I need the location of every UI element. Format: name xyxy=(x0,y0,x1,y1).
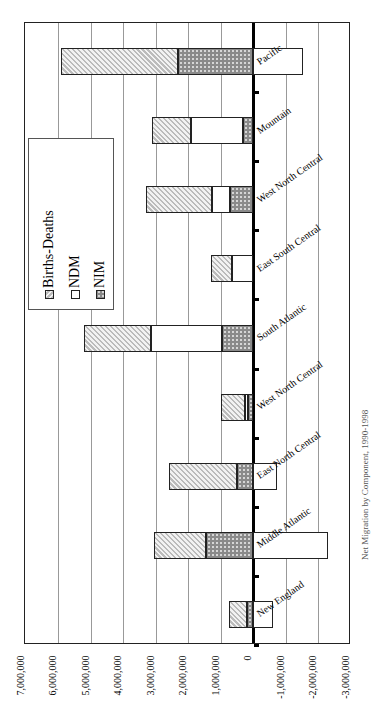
axis-tick-label: 7,000,000 xyxy=(14,656,25,703)
legend-item-nim: NIM xyxy=(92,261,108,299)
legend-item-ndm: NDM xyxy=(67,255,83,299)
bar-segment-births-deaths xyxy=(84,325,151,352)
dots-swatch-icon xyxy=(96,290,105,299)
bar-segment-births-deaths xyxy=(154,532,206,559)
bar-segment-ndm xyxy=(232,255,253,282)
bar-segment-births-deaths xyxy=(229,601,247,628)
bar-segment-births-deaths xyxy=(146,186,213,213)
gridline xyxy=(58,23,59,643)
bar-segment-births-deaths xyxy=(211,255,232,282)
category-label: West North Central xyxy=(255,359,325,412)
axis-tick-label: 4,000,000 xyxy=(112,656,123,703)
bar-segment-nim xyxy=(243,117,253,144)
bar-segment-births-deaths xyxy=(221,394,245,421)
axis-tick-label: -1,000,000 xyxy=(274,656,285,703)
category-label: Mountain xyxy=(255,104,293,135)
bar-segment-births-deaths xyxy=(61,48,178,75)
category-label: West North Central xyxy=(255,151,325,204)
bar-segment-ndm xyxy=(212,186,230,213)
legend: Births-Deaths NDM NIM xyxy=(28,138,114,310)
category-label: East North Central xyxy=(255,429,323,481)
hatch-swatch-icon xyxy=(45,290,54,299)
axis-tick-label: 6,000,000 xyxy=(47,656,58,703)
axis-tick xyxy=(254,91,259,94)
chart-title: Net Migration by Component, 1990-1998 xyxy=(360,410,370,560)
axis-tick xyxy=(254,368,259,371)
bar-segment-births-deaths xyxy=(169,463,237,490)
axis-tick-label: 1,000,000 xyxy=(209,656,220,703)
bar-segment-nim xyxy=(206,532,253,559)
axis-tick xyxy=(254,160,259,163)
axis-tick xyxy=(254,644,259,647)
bar-segment-nim xyxy=(248,394,253,421)
bar-segment-births-deaths xyxy=(152,117,191,144)
axis-tick-label: -3,000,000 xyxy=(339,656,350,703)
plot-area: New EnglandMiddle AtlanticEast North Cen… xyxy=(24,22,350,644)
bar-segment-nim xyxy=(237,463,253,490)
axis-tick xyxy=(254,575,259,578)
bar-segment-ndm xyxy=(191,117,243,144)
axis-tick xyxy=(254,229,259,232)
category-label: South Atlantic xyxy=(255,301,308,343)
axis-tick xyxy=(254,506,259,509)
legend-item-births-deaths: Births-Deaths xyxy=(41,210,57,299)
bar-segment-nim xyxy=(230,186,253,213)
category-label: East South Central xyxy=(255,222,323,274)
category-label: New England xyxy=(255,579,306,619)
bar-segment-ndm xyxy=(151,325,223,352)
axis-tick xyxy=(254,298,259,301)
axis-tick-label: 2,000,000 xyxy=(177,656,188,703)
axis-tick-label: 0 xyxy=(242,656,253,703)
axis-tick-label: 5,000,000 xyxy=(79,656,90,703)
bar-segment-nim xyxy=(178,48,253,75)
axis-tick-label: -2,000,000 xyxy=(307,656,318,703)
bar-segment-ndm xyxy=(245,394,248,421)
white-swatch-icon xyxy=(71,290,80,299)
axis-tick-label: 3,000,000 xyxy=(144,656,155,703)
bar-segment-nim xyxy=(222,325,253,352)
axis-tick xyxy=(254,437,259,440)
